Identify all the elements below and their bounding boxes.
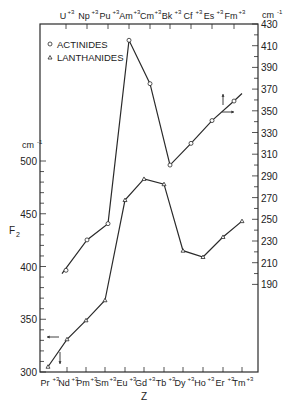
plot-frame — [40, 24, 258, 372]
top-axis-charge: +3 — [68, 9, 76, 15]
top-axis-label: Es — [204, 11, 215, 21]
bottom-axis-label: Pm — [76, 378, 90, 388]
right-tick-label: 230 — [261, 236, 278, 247]
bottom-axis-label: Eu — [116, 378, 127, 388]
top-axis-charge: +3 — [175, 9, 183, 15]
arrow-down-icon-head — [59, 361, 62, 364]
legend-actinides: ACTINIDES — [57, 39, 108, 50]
bottom-axis-label: Dy — [175, 378, 186, 388]
right-tick-label: 210 — [261, 258, 278, 269]
right-tick-label: 270 — [261, 193, 278, 204]
bottom-axis-label: Gd — [135, 378, 147, 388]
legend-triangle-icon — [48, 56, 52, 60]
lanthanide-point — [103, 298, 107, 302]
lanthanide-point — [240, 219, 244, 223]
bottom-axis-label: Tb — [156, 378, 167, 388]
top-axis-charge: +3 — [92, 9, 100, 15]
chart-canvas: 300350400450500cm-1F24304103903703503303… — [0, 0, 291, 406]
actinide-point — [210, 119, 214, 123]
actinide-point — [64, 268, 68, 272]
bottom-axis-charge: +3 — [247, 376, 255, 382]
top-axis-label: Cf — [184, 11, 193, 21]
actinide-point — [127, 38, 131, 42]
bottom-axis-label: Er — [216, 378, 225, 388]
actinide-point — [189, 141, 193, 145]
left-unit-exp: -1 — [37, 139, 43, 145]
right-tick-label: 290 — [261, 171, 278, 182]
top-axis-label: Pu — [99, 11, 110, 21]
legend-lanthanides: LANTHANIDES — [57, 52, 124, 63]
right-tick-label: 250 — [261, 214, 278, 225]
left-tick-label: 300 — [20, 367, 37, 378]
left-axis-label: F — [9, 225, 15, 236]
top-axis-label: Fm — [225, 11, 238, 21]
lanthanide-point — [181, 249, 185, 253]
right-tick-label: 330 — [261, 128, 278, 139]
arrow-up-icon-head — [222, 94, 225, 97]
actinide-point — [232, 99, 236, 103]
left-tick-label: 400 — [20, 262, 37, 273]
right-tick-label: 410 — [261, 41, 278, 52]
top-axis-charge: +3 — [217, 9, 225, 15]
f2-parameter-chart: 300350400450500cm-1F24304103903703503303… — [0, 0, 291, 406]
bottom-axis-charge: +3 — [208, 376, 216, 382]
actinide-point — [106, 222, 110, 226]
right-unit-label: cm — [262, 10, 274, 20]
right-tick-label: 370 — [261, 84, 278, 95]
left-tick-label: 350 — [20, 314, 37, 325]
x-axis-label: Z — [141, 391, 147, 402]
top-axis-label: Np — [78, 11, 90, 21]
actinide-point — [148, 82, 152, 86]
left-unit-label: cm — [22, 140, 34, 150]
bottom-axis-label: Nd — [58, 378, 70, 388]
bottom-axis-label: Pr — [41, 378, 50, 388]
right-tick-label: 390 — [261, 62, 278, 73]
actinide-point — [85, 238, 89, 242]
right-tick-label: 350 — [261, 106, 278, 117]
top-axis-label: Cm — [140, 11, 154, 21]
arrow-right-icon-head — [231, 111, 234, 114]
top-axis-label: Am — [119, 11, 133, 21]
top-axis-label: U — [60, 11, 67, 21]
bottom-axis-label: Ho — [194, 378, 206, 388]
right-unit-exp: -1 — [277, 9, 283, 15]
left-tick-label: 500 — [20, 156, 37, 167]
top-axis-charge: +3 — [196, 9, 204, 15]
lanthanides-line — [48, 179, 242, 367]
left-axis-label-sub: 2 — [16, 231, 20, 238]
lanthanide-point — [162, 182, 166, 186]
right-tick-label: 190 — [261, 279, 278, 290]
arrow-left-icon-head — [47, 336, 50, 339]
right-tick-label: 430 — [261, 19, 278, 30]
left-tick-label: 450 — [20, 209, 37, 220]
actinide-point — [168, 163, 172, 167]
lanthanide-point — [142, 177, 146, 181]
bottom-axis-label: Tm — [233, 378, 246, 388]
top-axis-label: Bk — [162, 11, 173, 21]
actinides-line — [62, 40, 242, 273]
bottom-axis-label: Sm — [95, 378, 109, 388]
right-tick-label: 310 — [261, 149, 278, 160]
top-axis-charge: +3 — [239, 9, 247, 15]
legend-circle-icon — [48, 42, 52, 46]
